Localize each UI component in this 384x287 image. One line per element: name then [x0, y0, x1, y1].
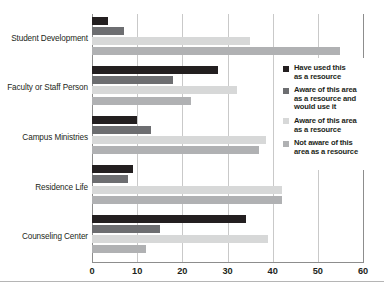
legend-swatch-icon [283, 141, 289, 147]
legend-swatch-icon [283, 66, 289, 72]
bar-group [92, 212, 363, 262]
category-label: Faculty or Staff Person [0, 83, 88, 92]
footer-rule [0, 281, 384, 282]
bar [92, 235, 268, 243]
legend-label: as a resource [294, 73, 381, 82]
x-tick-label-40: 40 [258, 266, 288, 276]
legend-swatch-icon [283, 88, 289, 94]
x-tick-label-0: 0 [77, 266, 107, 276]
bar [92, 165, 133, 173]
bar [92, 76, 173, 84]
bar [92, 196, 282, 204]
x-tick-label-60: 60 [348, 266, 378, 276]
horizontal-bar-chart: Student DevelopmentFaculty or Staff Pers… [0, 0, 384, 287]
category-label: Student Development [0, 34, 88, 43]
legend-item: Have used thisas a resource [283, 64, 381, 81]
legend-swatch-icon [283, 118, 289, 124]
category-label: Counseling Center [0, 232, 88, 241]
bar [92, 17, 108, 25]
bar [92, 66, 218, 74]
legend-item: Aware of this areaas a resource andwould… [283, 86, 381, 112]
category-label: Campus Ministries [0, 133, 88, 142]
x-tick-label-30: 30 [213, 266, 243, 276]
bar [92, 215, 246, 223]
bar-group [92, 163, 363, 213]
category-label: Residence Life [0, 183, 88, 192]
x-tick-label-10: 10 [122, 266, 152, 276]
legend-label: as a resource [294, 126, 381, 135]
chart-legend: Have used thisas a resourceAware of this… [283, 64, 381, 161]
bar [92, 126, 151, 134]
bar-group [92, 14, 363, 64]
legend-label: area as a resource [294, 148, 381, 157]
bar [92, 136, 266, 144]
bar [92, 86, 237, 94]
bar [92, 27, 124, 35]
bar [92, 225, 160, 233]
bar [92, 37, 250, 45]
x-tick-label-20: 20 [167, 266, 197, 276]
bar [92, 97, 191, 105]
x-axis-line [92, 262, 364, 263]
legend-item: Not aware of thisarea as a resource [283, 139, 381, 156]
bar [92, 245, 146, 253]
legend-item: Aware of this areaas a resource [283, 117, 381, 134]
bar [92, 47, 340, 55]
bar [92, 175, 128, 183]
bar [92, 116, 137, 124]
bar [92, 186, 282, 194]
bar [92, 146, 259, 154]
x-tick-label-50: 50 [303, 266, 333, 276]
legend-label: would use it [294, 103, 381, 112]
